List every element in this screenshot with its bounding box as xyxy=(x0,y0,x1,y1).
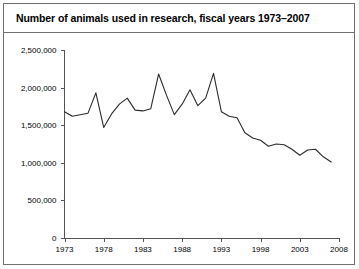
y-tick-label: 1,000,000 xyxy=(21,159,57,168)
plot-area: 0500,0001,000,0001,500,0002,000,0002,500… xyxy=(0,0,359,269)
y-tick-label: 2,000,000 xyxy=(21,84,57,93)
x-tick-label: 2003 xyxy=(291,245,309,254)
x-axis-ticks: 19731978198319881993199820032008 xyxy=(56,238,349,254)
x-tick-label: 1988 xyxy=(173,245,191,254)
x-tick-label: 1973 xyxy=(56,245,74,254)
y-axis-ticks: 0500,0001,000,0001,500,0002,000,0002,500… xyxy=(21,46,65,243)
x-tick-label: 1978 xyxy=(95,245,113,254)
x-tick-label: 2008 xyxy=(330,245,348,254)
data-series-line xyxy=(65,73,332,162)
y-tick-label: 500,000 xyxy=(28,196,57,205)
y-tick-label: 1,500,000 xyxy=(21,121,57,130)
x-tick-label: 1998 xyxy=(252,245,270,254)
y-tick-label: 2,500,000 xyxy=(21,46,57,55)
x-tick-label: 1993 xyxy=(212,245,230,254)
x-tick-label: 1983 xyxy=(134,245,152,254)
y-tick-label: 0 xyxy=(52,234,57,243)
chart-figure: Number of animals used in research, fisc… xyxy=(0,0,359,269)
